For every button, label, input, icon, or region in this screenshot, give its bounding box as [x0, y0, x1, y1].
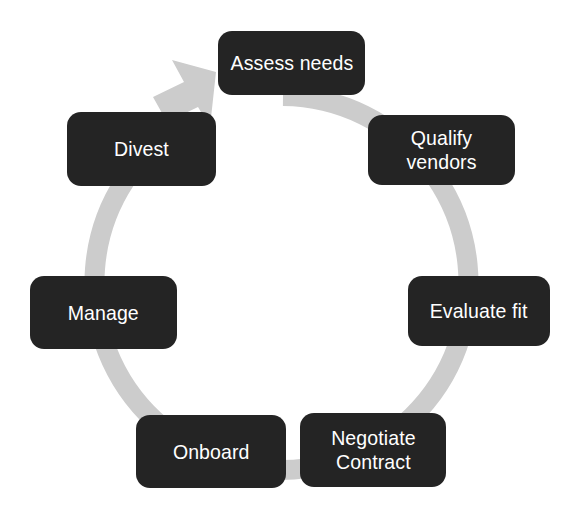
stage-label-manage: Manage: [62, 301, 144, 325]
stage-node-divest[interactable]: Divest: [67, 112, 216, 186]
stage-node-negotiate-contract[interactable]: Negotiate Contract: [300, 413, 446, 487]
stage-label-qualify-vendors: Qualify vendors: [373, 126, 510, 173]
stage-label-evaluate-fit: Evaluate fit: [425, 299, 534, 323]
stage-label-negotiate-contract: Negotiate Contract: [325, 426, 421, 473]
stage-label-onboard: Onboard: [167, 440, 255, 464]
stage-node-qualify-vendors[interactable]: Qualify vendors: [368, 115, 515, 185]
stage-node-evaluate-fit[interactable]: Evaluate fit: [408, 276, 550, 346]
stage-node-assess-needs[interactable]: Assess needs: [218, 31, 365, 95]
stage-label-assess-needs: Assess needs: [225, 51, 359, 75]
stage-node-manage[interactable]: Manage: [30, 276, 177, 349]
stage-node-onboard[interactable]: Onboard: [136, 415, 286, 488]
stage-label-divest: Divest: [108, 137, 174, 161]
cycle-diagram: Assess needs Qualify vendors Evaluate fi…: [0, 0, 578, 529]
